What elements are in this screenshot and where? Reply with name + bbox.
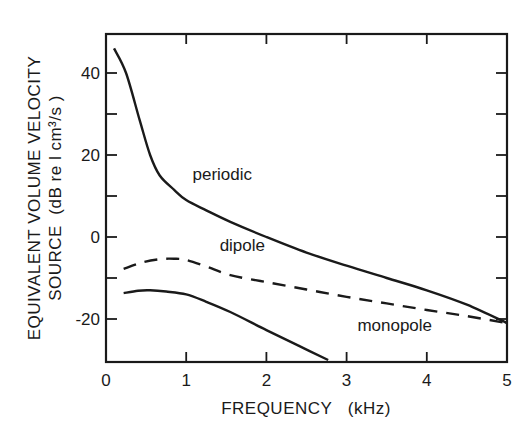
frequency-response-chart: 01234540200-20 periodicdipolemonopole FR…	[0, 0, 532, 438]
label-monopole: monopole	[357, 316, 432, 335]
y-tick-label: -20	[75, 310, 100, 329]
x-tick-label: 4	[422, 371, 431, 390]
data-curves	[114, 48, 507, 360]
tick-labels: 01234540200-20	[75, 64, 511, 390]
curve-monopole	[124, 290, 329, 360]
x-tick-label: 1	[181, 371, 190, 390]
curve-labels: periodicdipolemonopole	[193, 165, 433, 336]
y-axis-title-line1: EQUIVALENT VOLUME VELOCITY	[25, 56, 44, 340]
curve-periodic	[114, 48, 507, 323]
label-periodic: periodic	[193, 165, 253, 184]
y-tick-label: 40	[81, 64, 100, 83]
x-tick-label: 3	[342, 371, 351, 390]
y-axis-title-line2: SOURCE (dB re l cm³/s )	[46, 95, 65, 301]
y-tick-label: 0	[91, 228, 100, 247]
x-tick-label: 5	[502, 371, 511, 390]
label-dipole: dipole	[220, 236, 265, 255]
x-tick-label: 2	[262, 371, 271, 390]
x-axis-title: FREQUENCY (kHz)	[221, 399, 391, 418]
y-tick-label: 20	[81, 146, 100, 165]
x-tick-label: 0	[101, 371, 110, 390]
curve-dipole	[124, 259, 507, 323]
